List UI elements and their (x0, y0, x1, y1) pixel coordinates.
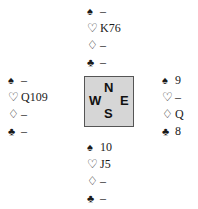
south-diamonds-cards: – (100, 173, 106, 190)
compass-south-label: S (104, 106, 113, 121)
south-hearts-cards: J5 (100, 156, 111, 173)
north-clubs-row: ♣– (87, 54, 121, 71)
heart-icon: ♡ (87, 20, 100, 37)
compass-north-label: N (104, 80, 113, 95)
west-hand: ♠– ♡Q109 ♢– ♣– (8, 72, 48, 140)
north-spades-row: ♠– (87, 3, 121, 20)
west-hearts-row: ♡Q109 (8, 89, 48, 106)
north-diamonds-cards: – (100, 37, 106, 54)
west-spades-row: ♠– (8, 72, 48, 89)
east-spades-row: ♠9 (162, 72, 184, 89)
spade-icon: ♠ (87, 3, 100, 20)
compass-box: N W E S (84, 76, 134, 127)
diamond-icon: ♢ (87, 37, 100, 54)
west-hearts-cards: Q109 (21, 89, 48, 106)
east-spades-cards: 9 (175, 72, 181, 89)
compass-west-label: W (89, 93, 101, 108)
north-diamonds-row: ♢– (87, 37, 121, 54)
south-diamonds-row: ♢– (87, 173, 112, 190)
east-diamonds-cards: Q (175, 106, 184, 123)
compass-east-label: E (120, 93, 129, 108)
east-clubs-row: ♣8 (162, 123, 184, 140)
west-spades-cards: – (21, 72, 27, 89)
south-hearts-row: ♡J5 (87, 156, 112, 173)
diamond-icon: ♢ (87, 173, 100, 190)
north-hearts-cards: K76 (100, 20, 121, 37)
east-hearts-cards: – (175, 89, 181, 106)
south-clubs-row: ♣– (87, 190, 112, 207)
heart-icon: ♡ (8, 89, 21, 106)
south-spades-row: ♠10 (87, 139, 112, 156)
heart-icon: ♡ (87, 156, 100, 173)
west-diamonds-cards: – (21, 106, 27, 123)
spade-icon: ♠ (162, 72, 175, 89)
north-hearts-row: ♡K76 (87, 20, 121, 37)
club-icon: ♣ (8, 123, 21, 140)
club-icon: ♣ (162, 123, 175, 140)
north-hand: ♠– ♡K76 ♢– ♣– (87, 3, 121, 71)
east-hand: ♠9 ♡– ♢Q ♣8 (162, 72, 184, 140)
west-diamonds-row: ♢– (8, 106, 48, 123)
west-clubs-row: ♣– (8, 123, 48, 140)
diamond-icon: ♢ (162, 106, 175, 123)
east-diamonds-row: ♢Q (162, 106, 184, 123)
diamond-icon: ♢ (8, 106, 21, 123)
east-hearts-row: ♡– (162, 89, 184, 106)
club-icon: ♣ (87, 190, 100, 207)
spade-icon: ♠ (8, 72, 21, 89)
spade-icon: ♠ (87, 139, 100, 156)
west-clubs-cards: – (21, 123, 27, 140)
east-clubs-cards: 8 (175, 123, 181, 140)
south-spades-cards: 10 (100, 139, 112, 156)
north-spades-cards: – (100, 3, 106, 20)
heart-icon: ♡ (162, 89, 175, 106)
club-icon: ♣ (87, 54, 100, 71)
north-clubs-cards: – (100, 54, 106, 71)
south-clubs-cards: – (100, 190, 106, 207)
south-hand: ♠10 ♡J5 ♢– ♣– (87, 139, 112, 207)
